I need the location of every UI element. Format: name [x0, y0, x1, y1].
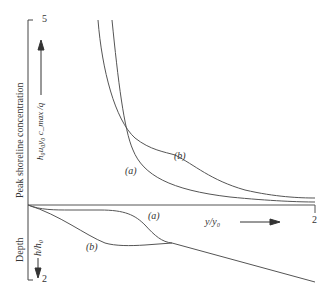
upper-curve-a — [112, 20, 315, 202]
top-tick-label: 5 — [42, 13, 47, 24]
lower-curve-b-label: (b) — [86, 241, 98, 252]
upper-y-axis-symbol: h₀u₀y₀ c_max /q — [35, 103, 45, 160]
x-axis-label: y/y₀ — [205, 216, 220, 227]
lower-arrow-icon — [35, 258, 41, 278]
x-axis — [28, 205, 315, 213]
lower-y-axis-symbol: h/h₀ — [32, 240, 43, 256]
upper-y-axis-label: Peak shoreline concentration — [14, 82, 25, 198]
lower-curve-a-label: (a) — [148, 210, 160, 221]
x-arrow-icon — [240, 219, 280, 225]
upper-curve-a-label: (a) — [125, 165, 137, 176]
chart-canvas — [0, 0, 333, 297]
lower-curve-merged — [172, 243, 315, 282]
upper-arrow-icon — [38, 40, 44, 95]
upper-curve-b-label: (b) — [174, 150, 186, 161]
bottom-tick-label: 2 — [42, 273, 47, 284]
x-end-tick-label: 2 — [312, 214, 317, 225]
lower-y-axis-label: Depth — [14, 238, 25, 262]
